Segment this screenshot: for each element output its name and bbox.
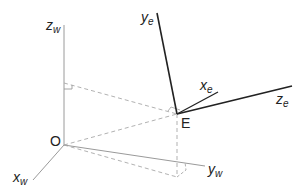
label-ze: ze — [275, 91, 289, 109]
label-yw: yw — [207, 161, 223, 179]
label-xe: xe — [199, 77, 213, 95]
right-angle-marker-e — [168, 107, 180, 111]
label-ye: ye — [140, 9, 154, 27]
projection-lines — [64, 83, 177, 177]
eye-x-axis — [177, 92, 218, 114]
world-y-axis — [64, 145, 205, 166]
label-origin: O — [50, 133, 61, 149]
world-x-axis — [33, 145, 64, 180]
label-zw: zw — [45, 17, 61, 35]
eye-y-axis — [157, 13, 177, 114]
right-angle-marker-y — [177, 162, 186, 177]
eye-z-axis — [177, 86, 292, 114]
label-eye: E — [181, 115, 190, 131]
label-xw: xw — [12, 169, 28, 187]
right-angle-marker-z — [64, 85, 72, 89]
coordinate-diagram: zw xw yw O E ye xe ze — [0, 0, 307, 194]
